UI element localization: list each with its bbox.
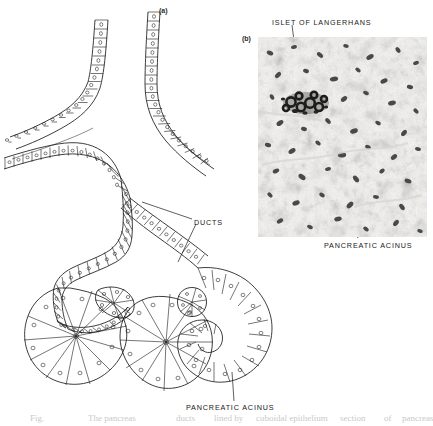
duct-right-upper (145, 12, 214, 176)
caption-fragment: section (340, 414, 366, 423)
label-pancreatic-acinus-photo: PANCREATIC ACINUS (324, 242, 412, 249)
label-ducts: DUCTS (194, 219, 223, 226)
acinus-right (178, 268, 272, 383)
duct-right-branch (121, 198, 208, 268)
leader-ducts-upper (142, 202, 192, 219)
panel-tag-b: (b) (242, 35, 251, 42)
leader-ducts-lower (178, 224, 196, 262)
caption-fragment: cuboidal epithelium (256, 414, 328, 423)
caption-fragment: of (384, 414, 392, 423)
duct-left-middle (4, 143, 130, 198)
caption-fragment: ducts (176, 414, 195, 423)
caption-fragment: Fig. (30, 414, 44, 423)
panel-tag-a: (a) (159, 7, 168, 14)
caption-strip: Fig. The pancreas ducts lined by cuboida… (0, 414, 433, 426)
caption-fragment: pancreas (402, 414, 433, 423)
label-pancreatic-acinus-drawing: PANCREATIC ACINUS (186, 404, 274, 411)
figure-root: .duct-wall { fill: none; stroke: #1a1a1a… (0, 0, 433, 426)
photomicrograph-svg (258, 37, 427, 237)
leader-pancreatic-acinus-drawing (232, 372, 234, 401)
caption-fragment: lined by (214, 414, 243, 423)
duct-left-upper (5, 20, 108, 159)
acinus-small-cluster-mid (177, 287, 206, 317)
acinus-small-upper-left (95, 287, 134, 318)
label-islet-of-langerhans: ISLET OF LANGERHANS (272, 19, 372, 26)
caption-fragment: The pancreas (88, 414, 136, 423)
photomicrograph (258, 37, 427, 237)
